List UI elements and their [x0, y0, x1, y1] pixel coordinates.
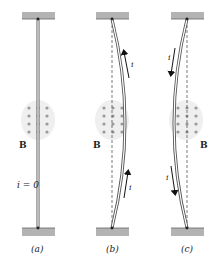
panel-caption-b: (b)	[106, 244, 119, 254]
current-label-i: i	[166, 173, 169, 182]
current-arrow-down-icon	[171, 166, 175, 193]
current-label-i: i	[168, 53, 171, 62]
panel-a: B i = 0 (a)	[17, 12, 55, 254]
field-label-B: B	[93, 140, 101, 150]
panel-caption-c: (c)	[181, 244, 194, 254]
current-label-i: i	[129, 183, 132, 192]
current-arrow-up-icon	[124, 172, 128, 198]
current-label-zero: i = 0	[17, 180, 39, 190]
field-label-B: B	[200, 140, 208, 150]
current-arrow-up-icon	[124, 52, 129, 78]
wire	[37, 18, 40, 230]
flexible-wire-magnetic-field-figure: B i = 0 (a) i i	[0, 0, 215, 262]
current-arrow-down-icon	[171, 48, 175, 74]
panel-b: i i B (b)	[93, 12, 134, 254]
panel-c: i i B (c)	[166, 12, 208, 254]
panel-caption-a: (a)	[31, 244, 44, 254]
current-label-i: i	[131, 60, 134, 69]
field-label-B: B	[19, 140, 27, 150]
